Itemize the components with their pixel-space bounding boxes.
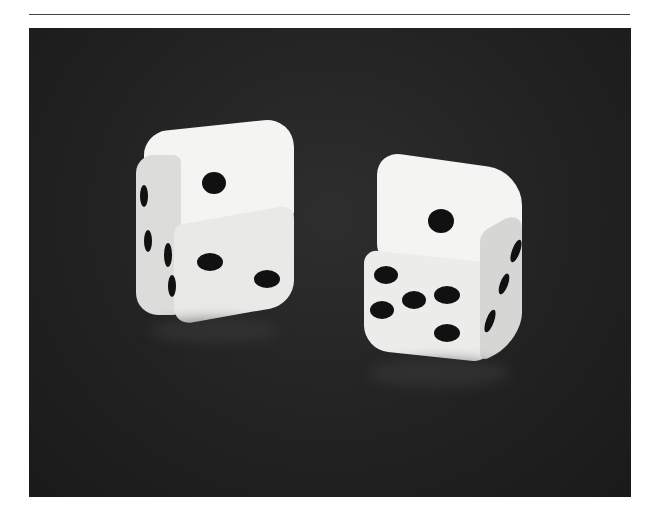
dice-photo bbox=[29, 28, 631, 497]
pip bbox=[144, 230, 152, 252]
reflection bbox=[149, 318, 279, 343]
pip bbox=[202, 172, 226, 194]
pip bbox=[370, 301, 394, 319]
pip bbox=[168, 275, 176, 297]
top-rule bbox=[29, 14, 630, 15]
pip bbox=[254, 270, 280, 288]
pip bbox=[428, 209, 454, 233]
pip bbox=[140, 185, 148, 207]
pip bbox=[402, 291, 426, 309]
pip bbox=[197, 253, 223, 271]
pip bbox=[164, 243, 172, 267]
right-die bbox=[362, 161, 527, 361]
pip bbox=[374, 266, 398, 284]
left-die-front-face bbox=[174, 204, 294, 325]
pip bbox=[434, 286, 460, 304]
left-die bbox=[134, 125, 294, 320]
reflection bbox=[369, 358, 509, 388]
pip bbox=[434, 324, 460, 342]
